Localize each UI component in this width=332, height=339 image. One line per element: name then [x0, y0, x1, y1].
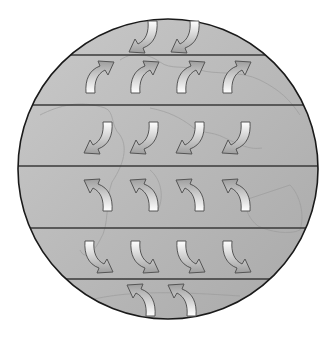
globe: [18, 19, 318, 319]
wind-belts-diagram: [0, 0, 332, 339]
